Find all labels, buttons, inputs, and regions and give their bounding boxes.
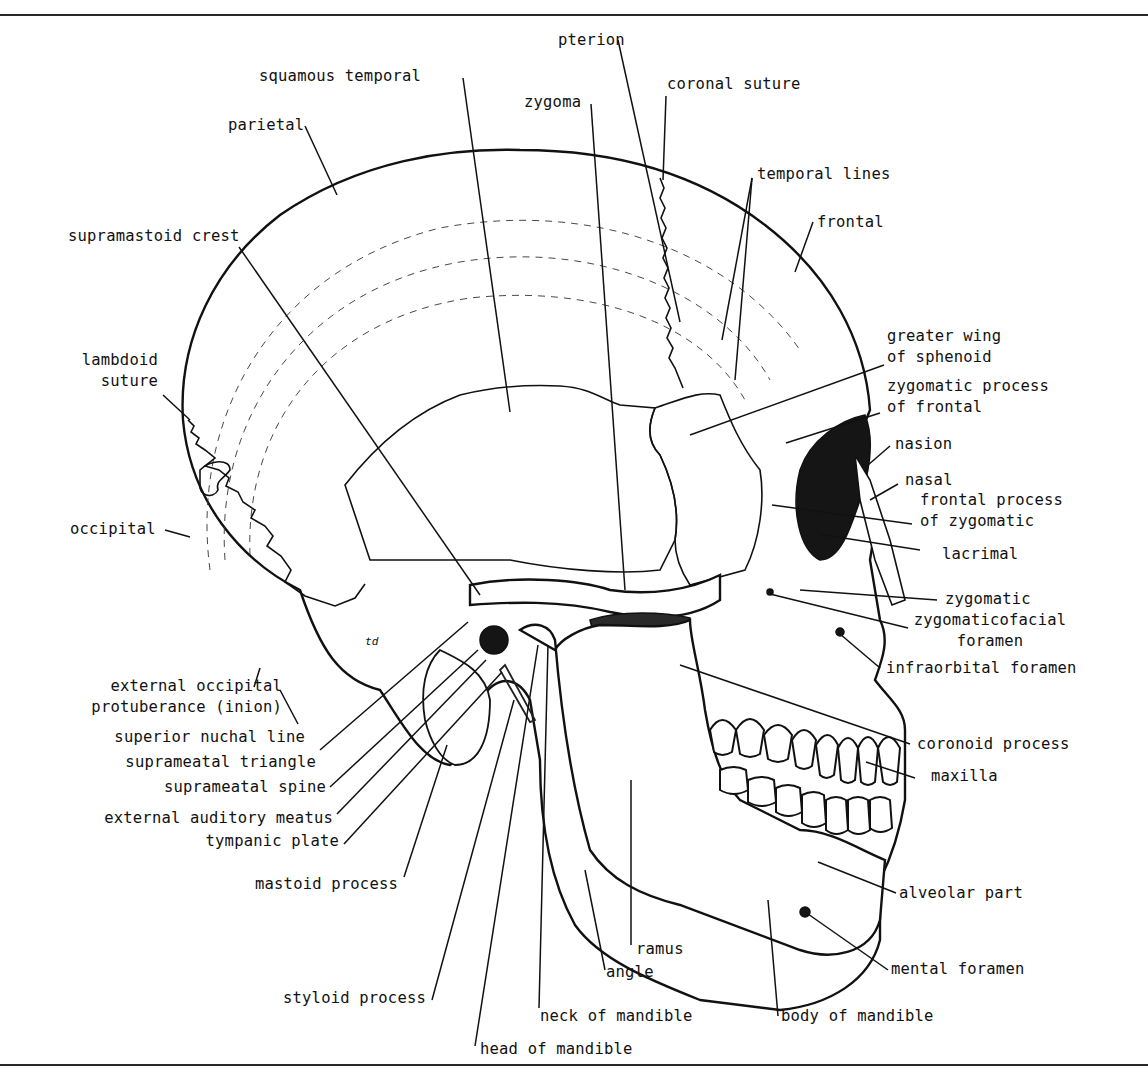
- label-neck-of-mandible: neck of mandible: [540, 1006, 693, 1027]
- auditory-meatus: [480, 626, 508, 654]
- label-superior-nuchal-line: superior nuchal line: [60, 727, 305, 748]
- label-suprameatal-triangle: suprameatal triangle: [60, 752, 316, 773]
- label-maxilla: maxilla: [931, 766, 998, 787]
- label-coronal-suture: coronal suture: [667, 74, 800, 95]
- label-mastoid-process: mastoid process: [160, 874, 398, 895]
- leader-mastoid-process: [404, 745, 447, 877]
- leader-parietal: [305, 126, 337, 195]
- label-external-auditory-meatus: external auditory meatus: [40, 808, 333, 829]
- label-alveolar-part: alveolar part: [899, 883, 1023, 904]
- label-temporal-lines: temporal lines: [757, 164, 890, 185]
- label-frontal-process-of-zygomatic: frontal process of zygomatic: [920, 490, 1063, 532]
- label-coronoid-process: coronoid process: [917, 734, 1070, 755]
- label-zygoma: zygoma: [524, 92, 581, 113]
- label-lacrimal: lacrimal: [942, 544, 1018, 565]
- label-zygomatic: zygomatic: [945, 589, 1031, 610]
- skull-illustration: [0, 0, 1148, 1084]
- label-nasion: nasion: [895, 434, 952, 455]
- label-greater-wing-of-sphenoid: greater wing of sphenoid: [887, 326, 1001, 368]
- label-lambdoid-suture: lambdoid suture: [78, 350, 158, 392]
- label-pterion: pterion: [558, 30, 625, 51]
- label-inline-mark: td: [365, 631, 379, 652]
- label-tympanic-plate: tympanic plate: [60, 831, 339, 852]
- leader-superior-nuchal: [280, 690, 298, 724]
- label-parietal: parietal: [228, 115, 304, 136]
- label-zygomaticofacial-foramen: zygomaticofacial foramen: [910, 610, 1070, 652]
- label-body-of-mandible: body of mandible: [781, 1006, 934, 1027]
- label-mental-foramen: mental foramen: [891, 959, 1024, 980]
- label-supramastoid-crest: supramastoid crest: [68, 226, 240, 247]
- leader-coronal-suture: [663, 96, 666, 180]
- label-ramus: ramus: [636, 939, 684, 960]
- mental-foramen-mark: [800, 907, 810, 917]
- leader-occipital: [165, 530, 190, 537]
- label-frontal: frontal: [817, 212, 884, 233]
- label-angle: angle: [606, 962, 654, 983]
- label-head-of-mandible: head of mandible: [480, 1039, 633, 1060]
- label-suprameatal-spine: suprameatal spine: [60, 777, 326, 798]
- label-infraorbital-foramen: infraorbital foramen: [886, 658, 1077, 679]
- label-occipital: occipital: [70, 519, 156, 540]
- label-zygomatic-process-of-frontal: zygomatic process of frontal: [887, 376, 1049, 418]
- label-squamous-temporal: squamous temporal: [259, 66, 421, 87]
- label-external-occipital-protuberance: external occipital protuberance (inion): [40, 676, 282, 718]
- leader-nasion: [868, 446, 890, 465]
- label-nasal: nasal: [905, 470, 953, 491]
- label-styloid-process: styloid process: [220, 988, 426, 1009]
